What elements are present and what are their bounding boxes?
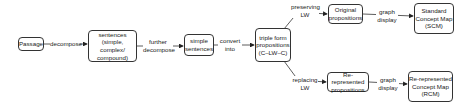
node-simple-sentences: simple sentences	[184, 34, 214, 56]
edge-label-preserving-lw: preserving LW	[291, 3, 319, 18]
node-standard-concept-map: Standard Concept Map (SCM)	[414, 3, 454, 34]
connector-lines	[0, 0, 469, 110]
edge-label-graph-display-top: graph display	[376, 8, 398, 23]
node-passage: Passage	[18, 37, 44, 51]
edge-label-convert-into: convert into	[218, 37, 242, 52]
edge-label-decompose: decompose	[50, 40, 80, 48]
node-rerepresented-propositions: Re-represented propositions	[327, 72, 369, 92]
node-sentences: sentences (simple, complex/ compound)	[88, 30, 137, 62]
edge-label-further-decompose: further decompose	[143, 38, 173, 53]
node-triple-form-propositions: triple form propositions (C–LW–C)	[255, 28, 291, 62]
edge-label-graph-display-bottom: graph display	[377, 76, 399, 91]
node-original-propositions: Original propositions	[328, 4, 363, 24]
edge-label-replacing-lw: replacing LW	[292, 76, 318, 91]
node-rerepresented-concept-map: Re-represented Concept Map (RCM)	[408, 71, 453, 102]
